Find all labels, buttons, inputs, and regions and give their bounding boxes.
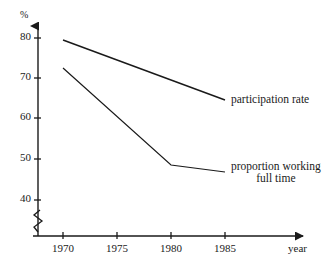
- y-tick-label-40: 40: [9, 193, 31, 205]
- series-label-line-1: proportion working: [231, 160, 321, 172]
- series-line-proportion-working-full-time: [63, 68, 225, 172]
- y-axis-unit-label: %: [20, 10, 28, 21]
- series-label-participation-rate: participation rate: [231, 93, 309, 105]
- y-tick-label-50: 50: [9, 152, 31, 164]
- series-label-proportion-working-full-time: proportion working full time: [231, 160, 321, 185]
- x-tick-label-1975: 1975: [95, 243, 139, 255]
- x-axis-name-label: year: [288, 243, 307, 255]
- chart-figure: % 80 70 60 50 40 1970 1975 1980 1985 yea…: [0, 0, 336, 267]
- y-tick-label-80: 80: [9, 31, 31, 43]
- chart-plot-area: [0, 0, 336, 267]
- y-tick-label-60: 60: [9, 111, 31, 123]
- x-tick-label-1970: 1970: [41, 243, 85, 255]
- x-tick-label-1980: 1980: [149, 243, 193, 255]
- x-tick-label-1985: 1985: [203, 243, 247, 255]
- y-tick-label-70: 70: [9, 71, 31, 83]
- series-line-participation-rate: [63, 40, 225, 100]
- series-label-line-2: full time: [231, 172, 321, 184]
